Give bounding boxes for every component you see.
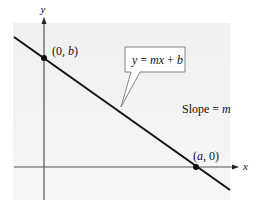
x-axis-label: x [242,160,248,172]
y-axis-arrow-icon [42,17,47,24]
x-axis-arrow-icon [232,165,239,170]
slope-intercept-diagram: y x (0, b) (a, 0) y = mx + b Slope = m [0,0,257,210]
y-intercept-point [41,55,47,61]
y-axis-label: y [40,3,46,15]
y-intercept-label: (0, b) [52,44,78,58]
x-intercept-point [193,164,199,170]
equation-label: y = mx + b [131,53,183,67]
slope-label: Slope = m [182,102,231,116]
x-intercept-label: (a, 0) [193,149,219,163]
